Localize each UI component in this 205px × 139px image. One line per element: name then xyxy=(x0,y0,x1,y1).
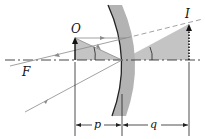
object-distance-label: p xyxy=(94,118,101,131)
ray-reflected-2 xyxy=(25,60,122,112)
arrowhead xyxy=(123,123,128,127)
ray-reflected-1 xyxy=(10,38,126,66)
arrowhead xyxy=(76,123,81,127)
arrowhead xyxy=(116,123,121,127)
ray-arrowhead xyxy=(100,36,105,40)
image-label: I xyxy=(184,7,190,21)
image-distance-label: q xyxy=(150,118,157,131)
arrowhead xyxy=(183,123,188,127)
focal-point-label: F xyxy=(21,65,31,79)
ray-virtual-extension xyxy=(126,19,203,38)
object-label: O xyxy=(71,22,81,36)
convex-mirror-diagram: O I F p q xyxy=(0,0,205,139)
